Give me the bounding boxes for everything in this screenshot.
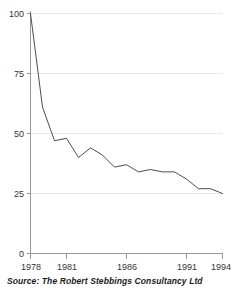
x-tick-label-1981: 1981 — [57, 262, 77, 272]
data-series-line — [31, 14, 223, 194]
x-tick-label-1986: 1986 — [117, 262, 137, 272]
x-tick-label-1978: 1978 — [21, 262, 41, 272]
y-axis: 100 75 50 25 0 — [9, 9, 31, 259]
gridlines — [31, 14, 223, 194]
x-tick-label-1991: 1991 — [177, 262, 197, 272]
x-tick-label-1994: 1994 — [211, 262, 231, 272]
y-tick-label-100: 100 — [9, 9, 24, 19]
line-chart-plot: 100 75 50 25 0 1978 1981 1986 1991 1994 — [0, 0, 243, 294]
chart-figure: 100 75 50 25 0 1978 1981 1986 1991 1994 … — [0, 0, 243, 294]
y-tick-label-75: 75 — [14, 69, 24, 79]
y-tick-label-0: 0 — [19, 249, 24, 259]
y-tick-label-50: 50 — [14, 129, 24, 139]
x-axis: 1978 1981 1986 1991 1994 — [21, 254, 231, 273]
y-tick-label-25: 25 — [14, 189, 24, 199]
source-note: Source: The Robert Stebbings Consultancy… — [7, 276, 203, 286]
